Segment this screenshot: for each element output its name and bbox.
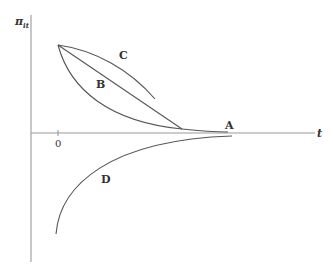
origin-tick-label: 0	[55, 138, 61, 149]
curve-d	[56, 136, 232, 234]
curve-a-label: A	[224, 119, 234, 132]
curve-d-label: D	[101, 173, 111, 186]
x-axis-label: t	[317, 127, 322, 140]
y-axis-label: πit	[14, 15, 30, 30]
curve-b-label: B	[96, 78, 105, 91]
curve-a	[58, 45, 228, 132]
curve-c-label: C	[119, 49, 128, 62]
curve-c	[58, 45, 155, 99]
phase-diagram: πit t 0 C B A D	[0, 0, 333, 277]
